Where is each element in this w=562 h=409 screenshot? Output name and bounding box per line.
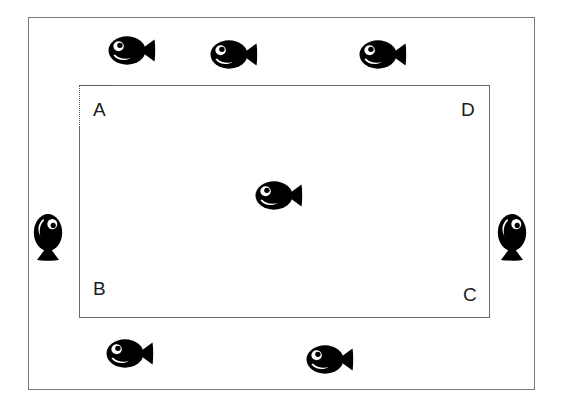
corner-label-d: D <box>461 100 475 119</box>
fish-top-left-icon <box>108 35 156 66</box>
corner-label-c: C <box>463 285 477 304</box>
fish-icon-body <box>496 213 527 261</box>
fish-top-middle-icon <box>210 39 258 70</box>
fish-top-right-icon <box>359 39 407 70</box>
fish-right-icon <box>496 213 527 261</box>
corner-label-b: B <box>93 279 106 298</box>
corner-label-a: A <box>93 100 106 119</box>
fish-left-icon <box>32 213 63 261</box>
fish-tank-diagram: A D B C <box>0 0 562 409</box>
fish-icon-body <box>32 213 63 261</box>
fish-bottom-right-icon <box>306 344 354 375</box>
fish-bottom-left-icon <box>106 338 154 369</box>
inner-rectangle-dotted-top-edge <box>79 85 113 86</box>
fish-center-icon <box>255 180 303 211</box>
inner-rectangle-dotted-left-edge <box>79 85 80 127</box>
